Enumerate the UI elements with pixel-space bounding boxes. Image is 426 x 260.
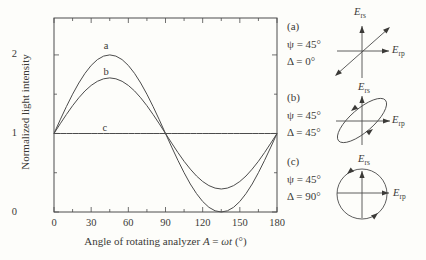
x-tick-label: 0 [51,217,56,228]
ers-label-diagram-a: Ers [354,6,366,20]
annotation-c-tag: (c) [287,153,321,171]
curve-label-c: c [102,122,107,133]
plot-area [54,18,277,212]
polarization-diagram-c [337,168,389,220]
x-tick-label: 30 [86,217,97,228]
annotation-b: (b) ψ = 45° Δ = 45° [287,89,321,142]
y-tick-label: 0 [0,206,17,217]
curve-label-b: b [103,65,108,76]
ers-sub: rs [365,86,370,95]
curve-label-a: a [104,39,109,50]
x-axis-var-A: A [203,235,210,247]
y-tick-label: 2 [0,48,17,59]
ers-label-diagram-c: Ers [358,153,370,167]
figure-canvas [0,0,426,260]
annotation-a-tag: (a) [287,18,321,36]
annotation-c: (c) ψ = 45° Δ = 90° [287,153,321,206]
x-axis-title: Angle of rotating analyzer A = ωt (°) [54,235,277,247]
annotation-a-delta: Δ = 0° [287,53,321,71]
erp-label-diagram-a: Erp [392,44,405,58]
x-axis-title-suffix: (°) [232,235,246,247]
figure: Normalized light intensity Angle of rota… [0,0,426,260]
x-tick-label: 120 [195,217,211,228]
annotation-b-tag: (b) [287,89,321,107]
erp-label-diagram-c: Erp [393,187,406,201]
plot-curves [54,55,277,212]
annotation-b-psi: ψ = 45° [287,107,321,125]
annotation-c-delta: Δ = 90° [287,188,321,206]
x-tick-label: 90 [160,217,171,228]
erp-sub: rp [398,119,404,128]
ers-label-diagram-b: Ers [358,81,370,95]
polarization-diagram-b [331,91,393,149]
x-axis-equals: = [210,235,222,247]
erp-sub: rp [398,49,404,58]
annotation-a: (a) ψ = 45° Δ = 0° [287,18,321,71]
annotation-c-psi: ψ = 45° [287,171,321,189]
ers-sub: rs [361,11,366,20]
erp-sub: rp [399,192,405,201]
x-tick-label: 150 [232,217,248,228]
y-axis-title: Normalized light intensity [19,54,31,169]
erp-label-diagram-b: Erp [392,114,405,128]
x-tick-label: 60 [123,217,134,228]
x-axis-var-omega-t: ωt [221,235,232,247]
polarization-diagram-a [335,26,390,78]
x-axis-title-prefix: Angle of rotating analyzer [84,235,203,247]
annotation-a-psi: ψ = 45° [287,36,321,54]
annotation-b-delta: Δ = 45° [287,124,321,142]
y-tick-label: 1 [0,127,17,138]
ers-sub: rs [365,158,370,167]
x-tick-label: 180 [269,217,285,228]
